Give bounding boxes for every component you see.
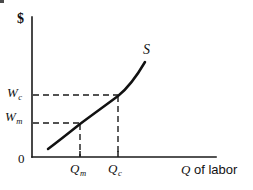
supply-curve — [48, 62, 145, 149]
x-axis-label-symbol: Q — [181, 162, 190, 177]
y-axis-label: $ — [17, 12, 24, 26]
supply-curve-label: S — [143, 43, 150, 57]
quantity-monopsony-subscript: m — [80, 168, 86, 178]
supply-curve-figure: $ Wc Wm 0 Qm Qc Q of labor S — [0, 0, 253, 190]
x-axis-label: Q of labor — [181, 163, 237, 176]
scan-artifact — [0, 0, 4, 3]
quantity-competitive-label: Qc — [108, 162, 121, 175]
quantity-competitive-subscript: c — [118, 168, 122, 178]
x-axis-label-text: of labor — [190, 162, 237, 177]
wage-competitive-subscript: c — [18, 92, 22, 102]
origin-label: 0 — [18, 152, 25, 165]
wage-monopsony-subscript: m — [16, 116, 22, 126]
wage-monopsony-label: Wm — [5, 110, 22, 123]
quantity-monopsony-symbol: Q — [70, 161, 79, 176]
wage-monopsony-symbol: W — [5, 109, 16, 124]
wage-competitive-symbol: W — [7, 85, 18, 100]
quantity-competitive-symbol: Q — [108, 161, 117, 176]
wage-competitive-label: Wc — [7, 86, 22, 99]
quantity-monopsony-label: Qm — [70, 162, 86, 175]
